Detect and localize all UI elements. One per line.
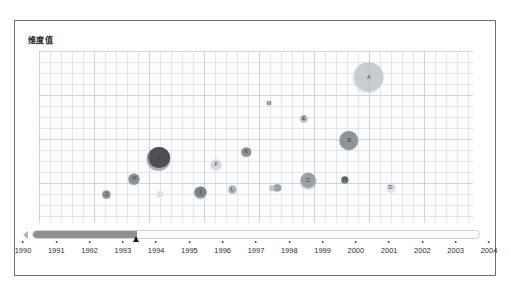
bubble-l[interactable]: L [228,185,237,194]
bubble-n[interactable]: N [341,176,349,184]
axis-tick-label: 1998 [281,246,298,255]
bubble-m[interactable]: M [266,100,272,106]
axis-tick-label: 1993 [115,246,132,255]
bubble-label: M [267,101,272,107]
bubble-label: K [245,149,249,155]
tick-dot-icon [322,241,324,243]
tick-dot-icon [255,241,257,243]
slider-track-fill [33,231,137,238]
bubble-label: H [132,176,136,182]
bubble-k[interactable]: K [241,147,251,157]
bubble-label: L [231,187,234,193]
slider-track[interactable] [32,230,480,239]
bubble-label: G [157,155,161,161]
bubble-g[interactable]: G [147,146,171,170]
axis-tick-2003: 2003 [447,241,464,255]
bubble-label: N [343,177,347,183]
plot-area[interactable]: ABCDEFGHIJKLMN [39,51,473,223]
tick-dot-icon [421,241,423,243]
axis-tick-label: 1997 [248,246,265,255]
tick-dot-icon [455,241,457,243]
axis-tick-2001: 2001 [381,241,398,255]
tick-dot-icon [89,241,91,243]
bubble-unlabeled[interactable] [156,191,163,198]
chart-card: 维度值 ABCDEFGHIJKLMN 199019911992199319941… [14,20,496,276]
page-title: 维度值 [28,34,53,45]
timeline-slider[interactable] [23,228,489,242]
axis-tick-1993: 1993 [115,241,132,255]
bubble-layer: ABCDEFGHIJKLMN [39,51,473,223]
axis-tick-label: 1996 [214,246,231,255]
axis-tick-1998: 1998 [281,241,298,255]
axis-tick-label: 2002 [414,246,431,255]
bubble-unlabeled[interactable] [269,185,275,191]
bubble-label: B [347,138,351,144]
bubble-label: A [367,74,371,80]
bubble-b[interactable]: B [339,130,359,150]
tick-dot-icon [288,241,290,243]
axis-tick-label: 1994 [148,246,165,255]
bubble-h[interactable]: H [128,173,140,185]
axis-tick-label: 2004 [481,246,498,255]
bubble-e[interactable]: E [300,115,308,123]
tick-dot-icon [388,241,390,243]
bubble-label: E [302,116,306,122]
tick-dot-icon [155,241,157,243]
tick-dot-icon [55,241,57,243]
tick-dot-icon [488,241,490,243]
triangle-left-icon[interactable] [23,231,28,239]
axis-tick-label: 1990 [15,246,32,255]
axis-tick-label: 2000 [348,246,365,255]
axis-tick-1996: 1996 [214,241,231,255]
axis-tick-1994: 1994 [148,241,165,255]
bubble-f[interactable]: F [210,159,222,171]
bubble-d[interactable]: D [386,183,396,193]
tick-dot-icon [222,241,224,243]
axis-tick-label: 2001 [381,246,398,255]
bubble-chart-screenshot: 维度值 ABCDEFGHIJKLMN 199019911992199319941… [0,0,510,296]
axis-tick-label: 1999 [314,246,331,255]
bubble-label: D [389,185,393,191]
x-axis: 1990199119921993199419951996199719981999… [23,241,489,265]
bubble-label: I [200,189,202,195]
axis-tick-2002: 2002 [414,241,431,255]
bubble-label: F [214,162,217,168]
axis-tick-label: 1991 [48,246,65,255]
axis-tick-2000: 2000 [348,241,365,255]
tick-dot-icon [22,241,24,243]
tick-dot-icon [122,241,124,243]
axis-tick-1990: 1990 [15,241,32,255]
axis-tick-label: 1995 [181,246,198,255]
tick-dot-icon [355,241,357,243]
bubble-i[interactable]: I [194,186,207,199]
axis-tick-label: 1992 [81,246,98,255]
bubble-label: C [306,177,310,183]
tick-dot-icon [188,241,190,243]
bubble-label: J [105,192,108,198]
axis-tick-label: 2003 [447,246,464,255]
axis-tick-1997: 1997 [248,241,265,255]
bubble-a[interactable]: A [353,61,384,92]
axis-tick-1995: 1995 [181,241,198,255]
bubble-j[interactable]: J [102,190,111,199]
bubble-c[interactable]: C [300,172,317,189]
axis-tick-1992: 1992 [81,241,98,255]
axis-tick-1991: 1991 [48,241,65,255]
axis-tick-1999: 1999 [314,241,331,255]
axis-tick-2004: 2004 [481,241,498,255]
